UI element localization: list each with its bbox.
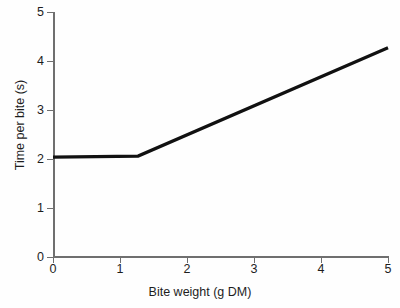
chart-figure: 5 4 3 2 1 0 0 1 2 3 4 5 Bite weight (g D…	[0, 0, 400, 308]
series-line-time-per-bite	[53, 48, 388, 157]
data-line-svg	[0, 0, 400, 308]
